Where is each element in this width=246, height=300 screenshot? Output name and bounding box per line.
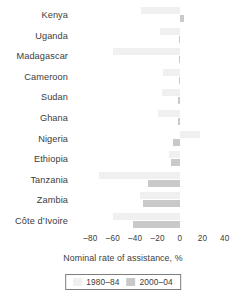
x-axis: –80–60–40–2002040 <box>0 232 246 254</box>
bar-group <box>0 108 246 129</box>
bar-early <box>140 192 180 199</box>
bar-early <box>162 89 180 96</box>
bar-early <box>163 69 180 76</box>
x-tick-label: 40 <box>210 234 240 244</box>
x-axis-title: Nominal rate of assistance, % <box>0 252 246 264</box>
chart-row: Ghana <box>0 108 246 129</box>
bar-group <box>0 5 246 26</box>
bar-early <box>160 28 180 35</box>
legend-swatch-icon <box>73 278 82 286</box>
chart-row: Cameroon <box>0 67 246 88</box>
bar-late <box>180 15 184 22</box>
bar-group <box>0 170 246 191</box>
bar-group <box>0 211 246 232</box>
bar-group <box>0 190 246 211</box>
chart-row: Uganda <box>0 26 246 47</box>
bar-late <box>173 139 180 146</box>
bar-late <box>171 159 180 166</box>
nominal-rate-of-assistance-chart: KenyaUgandaMadagascarCameroonSudanGhanaN… <box>0 0 246 300</box>
bar-early <box>169 151 180 158</box>
chart-row: Nigeria <box>0 129 246 150</box>
bar-early <box>113 213 180 220</box>
legend-entry: 1980–84 <box>73 277 119 287</box>
bar-early <box>180 131 200 138</box>
bar-group <box>0 149 246 170</box>
legend-label: 1980–84 <box>86 277 119 287</box>
bar-group <box>0 46 246 67</box>
chart-row: Tanzania <box>0 170 246 191</box>
bar-late <box>178 118 180 125</box>
chart-row: Ethiopia <box>0 149 246 170</box>
plot-area: KenyaUgandaMadagascarCameroonSudanGhanaN… <box>0 0 246 232</box>
bar-late <box>179 56 180 63</box>
chart-legend: 1980–842000–04 <box>65 274 181 290</box>
bar-late <box>179 36 180 43</box>
chart-row: Côte d’Ivoire <box>0 211 246 232</box>
chart-row: Zambia <box>0 190 246 211</box>
legend-entry: 2000–04 <box>127 277 173 287</box>
bar-late <box>148 180 180 187</box>
legend-swatch-icon <box>127 278 136 286</box>
bar-late <box>133 221 180 228</box>
bar-group <box>0 87 246 108</box>
legend-label: 2000–04 <box>140 277 173 287</box>
bar-group <box>0 26 246 47</box>
chart-row: Madagascar <box>0 46 246 67</box>
bar-late <box>178 97 180 104</box>
bar-early <box>158 110 180 117</box>
bar-early <box>99 172 180 179</box>
chart-row: Sudan <box>0 87 246 108</box>
bar-late <box>143 200 180 207</box>
bar-group <box>0 67 246 88</box>
chart-row: Kenya <box>0 5 246 26</box>
bar-early <box>141 7 180 14</box>
bar-early <box>113 48 180 55</box>
bar-late <box>179 77 180 84</box>
bar-group <box>0 129 246 150</box>
